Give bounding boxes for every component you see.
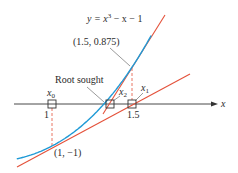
iterate-label-x0: x0 [46,87,55,100]
point-leader-line [110,48,130,66]
function-curve [17,36,151,159]
iterate-label-x1: x1 [140,82,149,95]
x-axis-arrow [211,102,218,107]
iterate-label-x2: x2 [118,86,127,99]
tick-label-1-5: 1.5 [127,109,140,120]
root-leader-line [87,87,104,102]
tangent-line-1 [17,74,190,167]
x-axis-label: x [220,98,226,109]
equation-label: y = x3 − x − 1 [86,12,142,24]
point-label-second: (1.5, 0.875) [73,36,120,48]
point-label-initial: (1, −1) [54,147,81,159]
newton-method-diagram: x x0 x2 x1 1 1.5 Root sought (1.5, 0.875… [0,0,238,173]
tick-label-1: 1 [44,109,49,120]
root-sought-label: Root sought [55,74,104,85]
